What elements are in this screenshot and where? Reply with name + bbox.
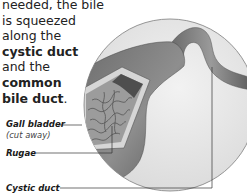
intro-line: and the bbox=[2, 59, 112, 75]
label-gall-bladder: Gall bladder bbox=[6, 119, 65, 129]
intro-line: along the bbox=[2, 28, 112, 44]
term-cystic-duct: cystic duct bbox=[2, 44, 78, 59]
label-cystic-duct: Cystic duct bbox=[6, 183, 60, 193]
label-cut-away: (cut away) bbox=[6, 130, 50, 140]
period: . bbox=[64, 91, 68, 106]
term-common-bile-duct-b: bile duct bbox=[2, 91, 64, 106]
intro-text: needed, the bile is squeezed along the c… bbox=[2, 0, 112, 106]
term-common-bile-duct-a: common bbox=[2, 75, 62, 90]
intro-line: is squeezed bbox=[2, 13, 112, 29]
intro-line: needed, the bile bbox=[2, 0, 112, 13]
label-rugae: Rugae bbox=[6, 148, 36, 158]
